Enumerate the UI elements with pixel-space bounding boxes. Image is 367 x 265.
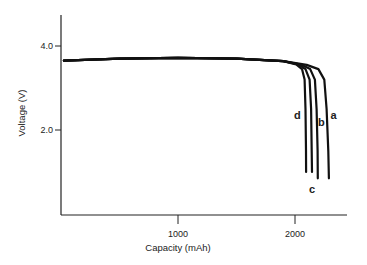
- discharge-curves: [64, 58, 329, 179]
- x-axis-title: Capacity (mAh): [145, 242, 210, 253]
- x-ticks: 10002000: [168, 215, 305, 239]
- x-tick-label: 2000: [285, 229, 305, 239]
- y-axis-title: Voltage (V): [16, 90, 27, 137]
- curve-label-a: a: [331, 109, 338, 121]
- y-tick-label: 2.0: [40, 125, 53, 135]
- y-ticks: 2.04.0: [40, 41, 61, 135]
- x-tick-label: 1000: [168, 229, 188, 239]
- y-tick-label: 4.0: [40, 41, 53, 51]
- curve-c: [64, 58, 312, 172]
- curve-d: [64, 58, 306, 172]
- chart: 2.04.0 10002000 abcd Capacity (mAh) Volt…: [0, 0, 367, 265]
- curve-a: [64, 58, 329, 179]
- curve-label-b: b: [318, 116, 325, 128]
- curve-b: [64, 58, 318, 179]
- curve-label-c: c: [309, 183, 315, 195]
- curve-labels: abcd: [294, 109, 338, 195]
- curve-label-d: d: [294, 109, 301, 121]
- plot-area: 2.04.0 10002000 abcd: [40, 15, 347, 239]
